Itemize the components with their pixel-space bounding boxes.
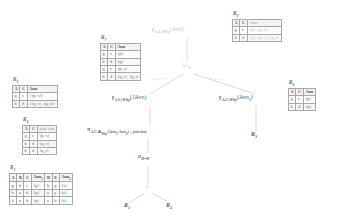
- cell: d: [30, 140, 37, 147]
- gamma-subscript: A,C;Why: [155, 29, 171, 34]
- table-r8-caption: R8: [233, 10, 282, 18]
- table-r8-col-a: A: [233, 19, 240, 26]
- table-r5-col-a: A: [13, 85, 20, 92]
- table-r4-caption: R4: [23, 116, 57, 124]
- cell: d: [24, 197, 31, 204]
- cell: g: [101, 51, 108, 58]
- cell: d: [20, 100, 27, 107]
- table-r3-caption: R3: [10, 164, 73, 172]
- cell: a: [45, 189, 52, 196]
- edge-cross-r1: [129, 193, 145, 203]
- table-r3-col-d: D: [45, 173, 52, 182]
- cell: h: [52, 197, 59, 204]
- cell: c: [108, 51, 115, 58]
- node-projection: πA,C,⊞Why(Ann1,Ann2)→joinAnn: [87, 126, 147, 136]
- table-r7-col-c: C: [108, 43, 115, 50]
- table-row: g b c {p} b g {s}: [10, 182, 73, 189]
- table-r4-header-row: A C joinAnn: [23, 125, 57, 132]
- cross-product-icon: ×: [145, 183, 149, 190]
- node-cross-product: ×: [145, 183, 149, 190]
- table-r7: R7 A C Ann g c {p} h d {q}: [100, 34, 141, 81]
- cell: c: [240, 27, 247, 34]
- cell: c: [20, 93, 27, 100]
- table-r3-col-ann2: Ann2: [59, 173, 73, 182]
- table-r6-header-row: A C Ann: [289, 88, 316, 95]
- table-r5-caption: R5: [13, 76, 58, 84]
- leaf-r1: R1: [124, 202, 130, 210]
- gamma-argument: (Ann): [170, 26, 184, 32]
- table-r7-header-row: A C Ann: [101, 43, 141, 50]
- cell: {t}: [59, 197, 73, 204]
- cell: a: [17, 189, 24, 196]
- cell: {r}: [59, 189, 73, 196]
- edge-stub-left: [150, 78, 168, 80]
- cell: d: [240, 34, 247, 41]
- table-r7-col-a: A: [101, 43, 108, 50]
- table-row: h d {q, t}: [23, 147, 57, 154]
- cell: a: [17, 197, 24, 204]
- cell: {p, s}: [115, 65, 141, 72]
- table-r8-grid: A C Ann g c {p}, {p, s} h d {q}, {q, r},…: [232, 19, 282, 42]
- cell: {p, s}: [37, 133, 56, 140]
- cell: b: [45, 182, 52, 189]
- cell: g: [101, 65, 108, 72]
- table-r8-col-c: C: [240, 19, 247, 26]
- table-row: h d {{q, r}, {q, t}}: [13, 100, 58, 107]
- leaf-r2: R2: [166, 202, 172, 210]
- cell: {q, r}, {q, t}: [115, 73, 141, 80]
- gamma-argument: (Ann3): [237, 94, 253, 100]
- table-row: h d {q, r}: [23, 140, 57, 147]
- cell: h: [10, 189, 17, 196]
- cell: g: [23, 133, 30, 140]
- node-gamma-left: γA,C;Why(JAnn): [112, 94, 146, 102]
- cell: {q}: [31, 189, 45, 196]
- node-union: ∪⊕: [182, 61, 192, 70]
- table-r5-col-c: C: [20, 85, 27, 92]
- cell: c: [296, 96, 303, 103]
- leaf-r3: R3: [251, 131, 257, 139]
- node-selection: σB=D: [138, 153, 149, 161]
- table-r6-caption: R6: [289, 79, 316, 87]
- table-r8-col-ann: Ann: [247, 19, 281, 26]
- table-r6-col-c: C: [296, 88, 303, 95]
- table-row: g c {{p, s}}: [13, 93, 58, 100]
- table-row: h d {q}: [101, 58, 141, 65]
- table-r3-header-row: A B C Ann1 D E Ann2: [10, 173, 73, 182]
- cell: h: [23, 147, 30, 154]
- table-row: g c {p, s}: [101, 65, 141, 72]
- table-r5-header-row: A C Ann: [13, 85, 58, 92]
- table-row: g c {p, s}: [23, 133, 57, 140]
- table-r8-header-row: A C Ann: [233, 19, 282, 26]
- gamma-subscript: A,C;Why: [115, 97, 131, 102]
- cell: a: [45, 197, 52, 204]
- table-r7-col-ann: Ann: [115, 43, 141, 50]
- table-r3: R3 A B C Ann1 D E Ann2 g b c {p}: [9, 164, 73, 205]
- edge-union-gammaright: [194, 74, 255, 94]
- table-r3-col-e: E: [52, 173, 59, 182]
- cell: {{q, r}, {q, t}}: [27, 100, 57, 107]
- cell: b: [17, 182, 24, 189]
- table-r3-grid: A B C Ann1 D E Ann2 g b c {p} b g {s}: [9, 173, 73, 205]
- cell: c: [108, 65, 115, 72]
- pi-subscript: A,C,⊞Why(Ann1,Ann2)→joinAnn: [90, 129, 146, 134]
- cell: {q, r}: [37, 140, 56, 147]
- cell: h: [23, 140, 30, 147]
- cell: {p}, {p, s}: [247, 27, 281, 34]
- table-r3-col-b: B: [17, 173, 24, 182]
- cell: c: [24, 182, 31, 189]
- cell: {q, t}: [37, 147, 56, 154]
- cell: {p}: [115, 51, 141, 58]
- cell: d: [30, 147, 37, 154]
- table-row: g c {p}: [289, 96, 316, 103]
- cell: g: [10, 182, 17, 189]
- table-r6: R6 A C Ann g c {p} h d {q}: [288, 79, 316, 111]
- cell: g: [233, 27, 240, 34]
- cell: g: [289, 96, 296, 103]
- cell: d: [108, 73, 115, 80]
- cell: d: [296, 103, 303, 110]
- cell: {{p, s}}: [27, 93, 57, 100]
- table-r5-grid: A C Ann g c {{p, s}} h d {{q, r}, {q, t}…: [12, 85, 58, 108]
- table-row: g c {p}: [101, 51, 141, 58]
- union-subscript: ⊕: [188, 65, 192, 70]
- table-r5: R5 A C Ann g c {{p, s}} h d {{q, r: [12, 76, 58, 108]
